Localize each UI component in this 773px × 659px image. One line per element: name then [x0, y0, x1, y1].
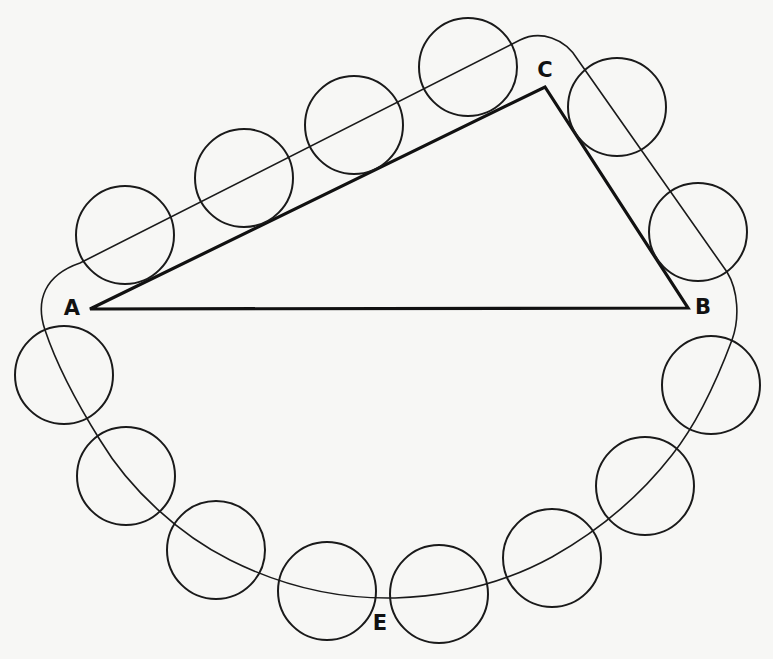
rolling-circle	[278, 542, 376, 640]
rolling-circle	[568, 58, 666, 156]
diagram-canvas: A B C E	[0, 0, 773, 659]
point-label-e: E	[373, 613, 387, 634]
vertex-label-a: A	[64, 298, 80, 319]
vertex-label-b: B	[695, 297, 711, 318]
rolling-circle	[662, 336, 760, 434]
diagram-svg	[0, 0, 773, 659]
rolling-circle	[76, 186, 174, 284]
vertex-label-c: C	[537, 60, 552, 81]
circle-center-path	[41, 36, 737, 598]
circle-chain	[15, 18, 760, 643]
rolling-circle	[167, 501, 265, 599]
rolling-circle	[195, 129, 293, 227]
rolling-circle	[503, 509, 601, 607]
triangle-abc	[90, 87, 688, 309]
